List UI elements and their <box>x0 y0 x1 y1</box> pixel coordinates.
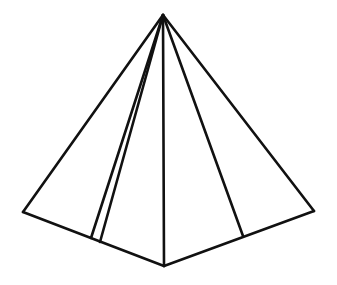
edge-left-bottom <box>23 212 164 266</box>
edge-apex-left <box>23 15 163 212</box>
edge-apex-bottom <box>163 15 164 266</box>
pyramid-diagram <box>0 0 337 285</box>
edge-apex-right <box>163 15 314 211</box>
edge-bottom-right <box>164 211 314 266</box>
edge-apex-inner-a <box>91 15 163 238</box>
edge-apex-inner-b <box>100 15 163 242</box>
pyramid-drawing <box>0 0 337 285</box>
edge-apex-inner-c <box>163 15 243 236</box>
